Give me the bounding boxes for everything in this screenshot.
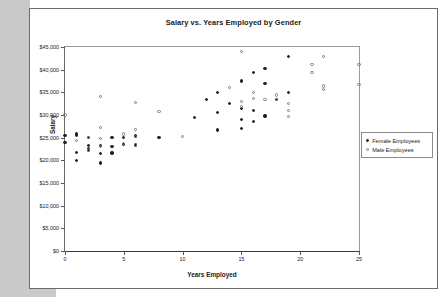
x-axis-title: Years Employed	[64, 271, 360, 278]
data-point-male	[275, 93, 278, 96]
data-point-female	[240, 118, 243, 121]
data-point-female	[63, 141, 66, 144]
x-axis-tick-label: 25	[356, 256, 362, 262]
data-point-male	[228, 86, 231, 89]
y-axis-tick-label: $10,000	[40, 203, 60, 209]
data-point-female	[252, 120, 255, 123]
data-point-male	[252, 91, 255, 94]
y-axis-tick-label: $45,000	[40, 44, 60, 50]
y-axis-title: Salary	[49, 95, 56, 155]
legend-label-male: Male Employees	[372, 147, 413, 153]
x-axis-tick	[300, 251, 301, 255]
legend-item-male[interactable]: Male Employees	[366, 145, 429, 154]
data-point-male	[263, 98, 266, 101]
data-point-female	[75, 133, 78, 136]
data-point-female	[240, 79, 243, 82]
data-point-male	[122, 132, 125, 135]
data-point-male	[181, 135, 184, 138]
data-point-male	[287, 109, 290, 112]
scatter-chart: Salary vs. Years Employed by Gender Sala…	[30, 9, 437, 288]
y-axis-tick-label: $5,000	[43, 225, 60, 231]
x-axis-tick-label: 0	[64, 256, 67, 262]
data-point-male	[75, 139, 78, 142]
hollow-circle-icon	[366, 148, 369, 151]
data-point-male	[287, 102, 290, 105]
x-axis-tick	[124, 251, 125, 255]
y-axis-tick	[61, 183, 65, 184]
data-point-male	[357, 83, 360, 86]
data-point-male	[134, 128, 137, 131]
data-point-female	[263, 114, 266, 117]
data-point-male	[87, 136, 90, 139]
data-point-male	[87, 148, 90, 151]
y-axis-tick-label: $20,000	[40, 157, 60, 163]
data-point-female	[99, 152, 102, 155]
x-axis-tick	[183, 251, 184, 255]
chart-legend: Female Employees Male Employees	[361, 132, 433, 158]
data-point-female	[216, 128, 219, 131]
x-axis-tick	[359, 251, 360, 255]
data-point-male	[99, 137, 102, 140]
document-sheet: Salary vs. Years Employed by Gender Sala…	[29, 8, 438, 289]
data-point-female	[75, 151, 78, 154]
y-axis-tick-label: $15,000	[40, 180, 60, 186]
data-point-male	[134, 143, 137, 146]
legend-label-female: Female Employees	[372, 138, 420, 144]
y-axis-tick	[61, 206, 65, 207]
data-point-female	[240, 127, 243, 130]
chart-title: Salary vs. Years Employed by Gender	[30, 18, 437, 27]
x-axis-tick	[241, 251, 242, 255]
y-axis-tick	[61, 47, 65, 48]
data-point-male	[240, 50, 243, 53]
x-axis-tick-label: 15	[238, 256, 244, 262]
data-point-female	[287, 91, 290, 94]
data-point-male	[157, 110, 160, 113]
data-point-female	[287, 55, 290, 58]
data-point-male	[99, 95, 102, 98]
data-point-male	[287, 115, 290, 118]
y-axis-tick-label: $25,000	[40, 135, 60, 141]
data-point-female	[110, 151, 113, 154]
data-point-male	[322, 88, 325, 91]
data-point-male	[99, 126, 102, 129]
page-shadow-left	[0, 0, 30, 290]
page-root: Salary vs. Years Employed by Gender Sala…	[0, 0, 442, 297]
legend-item-female[interactable]: Female Employees	[366, 136, 429, 145]
data-point-female	[205, 98, 208, 101]
data-point-female	[193, 116, 196, 119]
filled-circle-icon	[366, 139, 369, 142]
data-point-male	[322, 55, 325, 58]
data-point-male	[310, 63, 313, 66]
y-axis-tick-label: $30,000	[40, 112, 60, 118]
data-point-female	[263, 67, 266, 70]
data-point-female	[228, 102, 231, 105]
data-point-male	[240, 100, 243, 103]
data-point-male	[134, 135, 137, 138]
x-axis-tick-label: 20	[297, 256, 303, 262]
x-axis-tick-label: 5	[122, 256, 125, 262]
data-point-male	[63, 113, 66, 116]
x-axis-tick-label: 10	[180, 256, 186, 262]
data-point-female	[99, 161, 102, 164]
data-point-female	[216, 111, 219, 114]
data-point-female	[216, 91, 219, 94]
y-axis-tick	[61, 92, 65, 93]
data-point-female	[75, 159, 78, 162]
data-point-female	[110, 136, 113, 139]
plot-area: $0$5,000$10,000$15,000$20,000$25,000$30,…	[64, 46, 360, 252]
x-axis-tick	[65, 251, 66, 255]
data-point-female	[110, 145, 113, 148]
data-point-male	[310, 71, 313, 74]
data-point-female	[263, 82, 266, 85]
data-point-female	[252, 109, 255, 112]
data-point-female	[122, 136, 125, 139]
data-point-male	[252, 97, 255, 100]
data-point-female	[63, 134, 66, 137]
y-axis-tick	[61, 138, 65, 139]
data-point-female	[157, 136, 160, 139]
y-axis-tick-label: $40,000	[40, 67, 60, 73]
data-point-female	[252, 71, 255, 74]
y-axis-tick-label: $0	[53, 248, 59, 254]
y-axis-tick	[61, 70, 65, 71]
data-point-male	[134, 101, 137, 104]
